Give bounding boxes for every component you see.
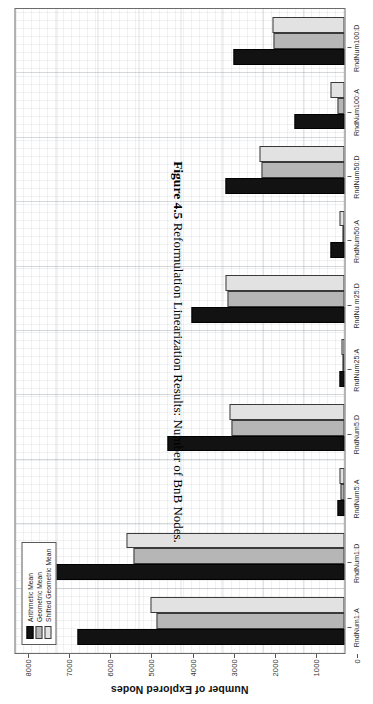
legend-item: Geometric Mean <box>35 549 42 639</box>
category-tick-mark <box>347 369 351 370</box>
category-tick-mark <box>347 47 351 48</box>
value-tick-label: 8000 <box>24 659 33 677</box>
value-tick-mark <box>315 654 316 658</box>
value-tick-label: 1000 <box>311 659 320 677</box>
category-tick-mark <box>347 305 351 306</box>
gridline-horizontal <box>97 9 98 653</box>
bar <box>150 597 344 613</box>
value-tick-mark <box>233 654 234 658</box>
bar <box>340 484 344 500</box>
legend-label: Arithmetic Mean <box>26 573 33 622</box>
value-tick-label: 4000 <box>188 659 197 677</box>
value-tick-mark <box>110 654 111 658</box>
category-tick-label: RndNum5:A <box>352 479 359 518</box>
bar <box>156 613 344 629</box>
value-tick-label: 3000 <box>229 659 238 677</box>
category-tick-mark <box>347 627 351 628</box>
value-tick-label: 5000 <box>147 659 156 677</box>
bar <box>229 404 344 420</box>
value-tick-label: 6000 <box>106 659 115 677</box>
bar <box>133 548 344 564</box>
bar <box>273 33 344 49</box>
bar <box>225 275 344 291</box>
value-tick-label: 2000 <box>270 659 279 677</box>
gridline-vertical <box>15 588 344 589</box>
category-tick-label: RndNum25:A <box>352 349 359 392</box>
bar <box>272 17 344 33</box>
bar <box>330 82 344 98</box>
gridline-horizontal <box>15 9 16 653</box>
value-tick-label: 7000 <box>65 659 74 677</box>
value-tick-mark <box>28 654 29 658</box>
legend-swatch <box>44 626 51 639</box>
bar <box>126 533 344 549</box>
legend-label: Geometric Mean <box>35 572 42 622</box>
category-tick-label: RndNum50:D <box>352 155 359 198</box>
gridline-vertical <box>15 72 344 73</box>
category-tick-label: RndNum1:A <box>352 608 359 647</box>
caption-text: Reformulation Linearization Results: Num… <box>171 223 186 543</box>
bar <box>339 211 344 227</box>
value-tick-mark <box>192 654 193 658</box>
value-axis-title: Number of Explored Nodes <box>14 684 345 698</box>
legend-swatch <box>26 626 33 639</box>
caption-number: Figure 4.5 <box>171 161 186 219</box>
bar <box>330 242 344 258</box>
bar <box>191 307 344 323</box>
category-tick-mark <box>347 498 351 499</box>
category-axis: RndNum1:ARndNum1:DRndNum5:ARndNum5:DRndN… <box>347 8 373 660</box>
category-tick-label: RndNum50:A <box>352 220 359 263</box>
bar <box>47 564 344 580</box>
bar <box>294 114 344 130</box>
category-tick-label: RndNum100:A <box>352 89 359 136</box>
bar <box>233 49 344 65</box>
category-tick-label: RndNu m25:D <box>352 283 359 328</box>
value-tick-mark <box>274 654 275 658</box>
chart-legend: Arithmetic MeanGeometric MeanShifted Geo… <box>21 542 56 645</box>
bar <box>261 162 344 178</box>
category-tick-label: RndNum100:D <box>352 25 359 72</box>
legend-item: Shifted Geometric Mean <box>44 549 51 639</box>
bar <box>341 339 344 355</box>
figure-caption: Figure 4.5 Reformulation Linearization R… <box>170 161 186 543</box>
value-tick-mark <box>151 654 152 658</box>
bar <box>259 146 344 162</box>
gridline-vertical <box>15 137 344 138</box>
category-tick-mark <box>347 434 351 435</box>
category-tick-label: RndNum1:D <box>352 544 359 583</box>
value-axis-ticks: 010002000300040005000600070008000 <box>14 654 345 684</box>
bar <box>342 355 344 371</box>
bar <box>342 226 344 242</box>
category-tick-mark <box>347 562 351 563</box>
bar <box>337 98 344 114</box>
bar <box>77 629 344 645</box>
chart-figure: Number of Explored Nodes 010002000300040… <box>0 0 373 704</box>
bar <box>339 468 344 484</box>
category-tick-mark <box>347 176 351 177</box>
figure-rotator: Number of Explored Nodes 010002000300040… <box>0 0 373 704</box>
category-tick-mark <box>347 112 351 113</box>
value-tick-mark <box>69 654 70 658</box>
bar <box>339 371 344 387</box>
legend-swatch <box>35 626 42 639</box>
bar <box>227 291 344 307</box>
bar <box>225 178 344 194</box>
legend-item: Arithmetic Mean <box>26 549 33 639</box>
category-tick-label: RndNum5:D <box>352 415 359 454</box>
legend-label: Shifted Geometric Mean <box>44 549 51 622</box>
bar <box>337 500 344 516</box>
bar <box>231 420 344 436</box>
bar <box>167 436 344 452</box>
category-tick-mark <box>347 240 351 241</box>
